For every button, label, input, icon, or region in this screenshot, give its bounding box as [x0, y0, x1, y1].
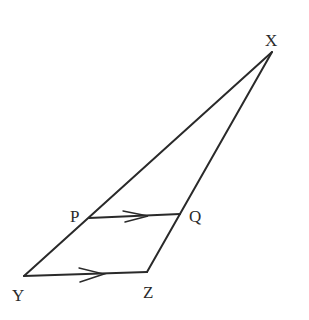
segment-yz: [24, 272, 147, 276]
segment-pq: [89, 214, 180, 218]
segment-xz: [147, 52, 272, 272]
label-x: X: [265, 31, 277, 50]
label-p: P: [70, 207, 79, 226]
triangle-diagram: X P Q Y Z: [0, 0, 309, 320]
label-q: Q: [189, 207, 201, 226]
label-y: Y: [12, 286, 24, 305]
label-z: Z: [143, 283, 153, 302]
segment-xy: [24, 52, 272, 276]
